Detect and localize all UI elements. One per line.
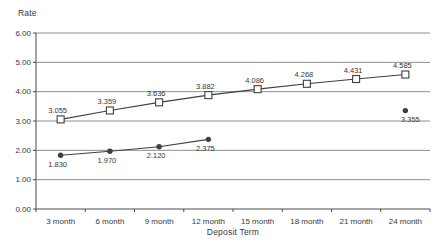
deposit-rate-chart: Rate 0.001.002.003.004.005.006.003 month… [0,0,440,244]
data-point-marker [107,149,112,154]
data-point-label: 3.055 [48,106,67,115]
x-tick-label: 18 month [290,217,323,226]
data-point-label: 3.636 [147,89,166,98]
x-tick-label: 24 month [389,217,422,226]
data-point-label: 4.431 [344,66,363,75]
series-line-2 [61,139,209,155]
data-point-marker [403,108,408,113]
data-point-marker [205,92,212,99]
data-point-marker [106,107,113,114]
data-point-marker [58,153,63,158]
data-point-marker [254,86,261,93]
x-axis-title: Deposit Term [207,227,259,237]
x-tick-label: 9 month [145,217,174,226]
y-tick-label: 1.00 [15,175,31,184]
data-point-marker [303,80,310,87]
data-point-label: 2.375 [196,144,215,153]
x-tick-label: 6 month [95,217,124,226]
data-point-label: 3.882 [196,82,215,91]
data-point-label: 3.355 [401,115,420,124]
data-point-label: 4.585 [393,61,412,70]
x-axis-title-wrap: Deposit Term [36,227,430,237]
y-tick-label: 2.00 [15,146,31,155]
x-tick-label: 15 month [241,217,274,226]
data-point-label: 2.120 [147,151,166,160]
x-tick-label: 12 month [192,217,225,226]
y-tick-label: 0.00 [15,205,31,214]
data-point-label: 1.970 [97,156,116,165]
data-point-marker [206,137,211,142]
data-point-marker [353,76,360,83]
data-point-marker [156,144,161,149]
data-point-marker [156,99,163,106]
x-tick-label: 21 month [339,217,372,226]
plot-area: 0.001.002.003.004.005.006.003 month6 mon… [0,0,440,244]
data-point-label: 4.268 [294,70,313,79]
data-point-label: 3.359 [97,97,116,106]
data-point-label: 4.086 [245,76,264,85]
data-point-marker [57,116,64,123]
y-tick-label: 6.00 [15,29,31,38]
y-tick-label: 4.00 [15,87,31,96]
data-point-marker [402,71,409,78]
y-tick-label: 5.00 [15,58,31,67]
data-point-label: 1.830 [48,160,67,169]
x-tick-label: 3 month [46,217,75,226]
y-tick-label: 3.00 [15,117,31,126]
